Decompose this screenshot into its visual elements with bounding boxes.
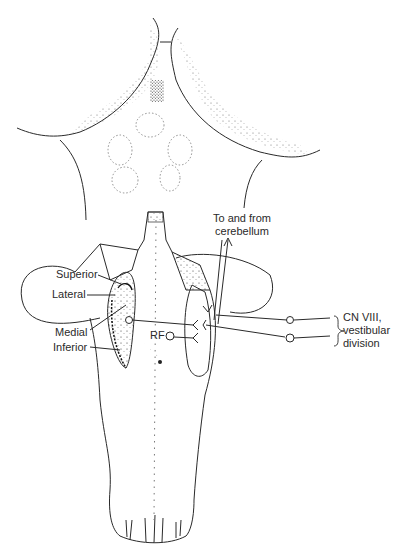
stippled-regions — [70, 25, 310, 222]
label-cerebellum-line2: cerebellum — [206, 225, 278, 238]
label-cn-line2: vestibular — [343, 324, 390, 337]
label-lateral: Lateral — [52, 288, 86, 301]
label-medial: Medial — [55, 326, 87, 339]
label-cerebellum: To and from cerebellum — [206, 212, 278, 238]
medulla-outline — [21, 212, 272, 543]
label-cn-viii: CN VIII, vestibular division — [343, 311, 390, 350]
label-superior: Superior — [56, 268, 98, 281]
label-cn-line3: division — [343, 337, 390, 350]
label-inferior: Inferior — [53, 341, 87, 354]
label-rf: RF — [150, 329, 165, 342]
label-cn-line1: CN VIII, — [343, 311, 390, 324]
label-cerebellum-line1: To and from — [206, 212, 278, 225]
midbrain-outline — [17, 18, 320, 220]
